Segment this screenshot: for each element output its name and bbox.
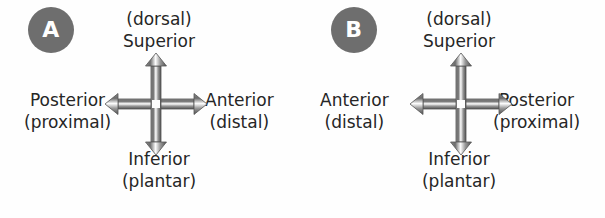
panel-a-left-direction-label: Posterior (proximal)	[24, 89, 111, 134]
panel-b: B (dorsal) Superior Inferior (plantar) A…	[303, 0, 605, 218]
panel-a-right-line2: (distal)	[205, 111, 274, 133]
panel-b-left-line2: (distal)	[320, 111, 389, 133]
panel-b-inferior-line2: (plantar)	[422, 170, 496, 192]
panel-a-right-line1: Anterior	[205, 89, 274, 111]
panel-a: A (dorsal) Superior Inferior (plantar) P…	[0, 0, 302, 218]
panel-b-badge: B	[331, 7, 377, 53]
panel-a-left-line2: (proximal)	[24, 111, 111, 133]
panel-a-inferior-line2: (plantar)	[122, 170, 196, 192]
panel-a-superior-line1: (dorsal)	[123, 8, 195, 30]
panel-a-badge: A	[28, 7, 74, 53]
panel-a-superior-label: (dorsal) Superior	[123, 8, 195, 53]
panel-a-badge-label: A	[42, 19, 60, 41]
panel-b-left-direction-label: Anterior (distal)	[320, 89, 389, 134]
panel-b-superior-line1: (dorsal)	[423, 8, 495, 30]
panel-b-badge-label: B	[345, 19, 362, 41]
panel-a-superior-line2: Superior	[123, 30, 195, 52]
panel-a-left-line1: Posterior	[24, 89, 111, 111]
panel-a-double-arrow-cross-icon	[104, 52, 208, 156]
panel-b-left-line1: Anterior	[320, 89, 389, 111]
panel-b-superior-label: (dorsal) Superior	[423, 8, 495, 53]
panel-b-double-arrow-cross-icon	[409, 52, 513, 156]
anatomical-orientation-figure: A (dorsal) Superior Inferior (plantar) P…	[0, 0, 605, 218]
panel-b-superior-line2: Superior	[423, 30, 495, 52]
panel-a-right-direction-label: Anterior (distal)	[205, 89, 274, 134]
